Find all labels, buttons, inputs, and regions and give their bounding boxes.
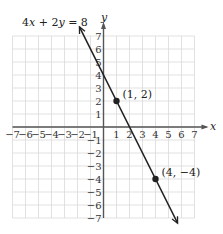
x-tick-label: 5 bbox=[165, 129, 171, 140]
axes bbox=[13, 22, 209, 218]
y-tick-label: −4 bbox=[87, 174, 102, 185]
x-tick-label: 7 bbox=[191, 129, 197, 140]
x-tick-label: 6 bbox=[178, 129, 184, 140]
x-tick-label: 4 bbox=[152, 129, 158, 140]
y-tick-label: 4 bbox=[95, 70, 101, 81]
point-label: (4, −4) bbox=[162, 166, 201, 179]
point-marker bbox=[113, 98, 119, 104]
point-label: (1, 2) bbox=[123, 88, 153, 101]
x-axis-label: x bbox=[210, 120, 217, 133]
y-axis-label: y bbox=[100, 11, 108, 24]
point-marker bbox=[152, 176, 158, 182]
graph-of-linear-equation: −7−6−5−4−3−2−112345677654321−1−2−3−4−5−6… bbox=[0, 0, 223, 234]
y-tick-label: 2 bbox=[95, 96, 101, 107]
equation-label: 4x + 2y = 8 bbox=[22, 16, 88, 29]
y-tick-label: −7 bbox=[87, 213, 102, 224]
x-tick-label: 1 bbox=[113, 129, 119, 140]
y-tick-label: −3 bbox=[87, 161, 102, 172]
y-tick-label: 1 bbox=[95, 109, 101, 120]
y-tick-label: 6 bbox=[95, 44, 101, 55]
y-tick-label: −2 bbox=[87, 148, 102, 159]
y-tick-label: 7 bbox=[95, 31, 101, 42]
y-tick-label: −6 bbox=[87, 200, 102, 211]
y-tick-label: −1 bbox=[87, 135, 102, 146]
x-tick-label: 3 bbox=[139, 129, 145, 140]
y-tick-label: −5 bbox=[87, 187, 102, 198]
y-tick-label: 3 bbox=[95, 83, 101, 94]
